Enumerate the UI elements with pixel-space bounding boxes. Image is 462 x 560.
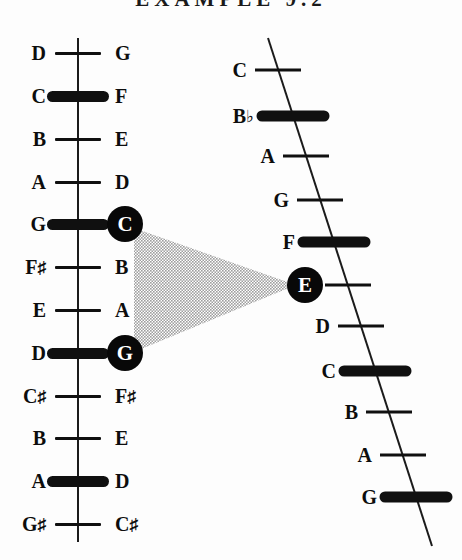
left-fret-tick	[55, 437, 101, 440]
right-string-note-label: D	[284, 316, 330, 336]
circled-note-c[interactable]: C	[107, 206, 143, 242]
accidental-glyph: ♯	[127, 387, 136, 406]
left-string-note-label: G	[6, 214, 46, 234]
left-fret-tick	[55, 181, 101, 184]
right-string-note-label: G	[331, 487, 377, 507]
example-figure-page: EXAMPLE 9.2 DGCFBEADGF♯BEADC♯F♯BEADG♯C♯ …	[0, 0, 462, 560]
left-fret-tick	[55, 138, 101, 141]
left-fret-tick-accent	[47, 476, 109, 487]
left-fret-tick-accent	[47, 91, 109, 102]
right-string-note-label: A	[229, 146, 275, 166]
right-fret-ticks	[255, 70, 447, 497]
right-string-note-label: C	[290, 361, 336, 381]
left-string-note-label: E	[6, 300, 46, 320]
left-string-partner-note-label: C♯	[115, 514, 138, 534]
right-string-note-label: G	[243, 190, 289, 210]
accidental-glyph: ♭	[246, 107, 254, 126]
left-string-note-label: D	[6, 343, 46, 363]
left-string-partner-note-label: D	[115, 471, 129, 491]
left-fret-tick	[55, 266, 101, 269]
left-string-note-label: C	[6, 86, 46, 106]
right-string-note-label: A	[326, 445, 372, 465]
left-fret-tick-accent	[47, 219, 109, 230]
left-string-note-label: B	[6, 129, 46, 149]
left-string-note-label: A	[6, 172, 46, 192]
accidental-glyph: ♯	[38, 258, 47, 277]
accidental-glyph: ♯	[38, 515, 47, 534]
figure-title: EXAMPLE 9.2	[0, 0, 462, 11]
circled-note-g[interactable]: G	[107, 335, 143, 371]
left-string-partner-note-label: D	[115, 172, 129, 192]
left-fret-tick	[55, 52, 101, 55]
left-string-partner-note-label: F	[115, 86, 127, 106]
left-string-note-label: C♯	[6, 386, 46, 406]
right-string-note-label: B♭	[208, 106, 254, 126]
left-string-note-label: F♯	[6, 257, 46, 277]
figure-title-band: EXAMPLE 9.2	[0, 0, 462, 11]
left-fret-tick	[55, 395, 101, 398]
left-string-note-label: D	[6, 43, 46, 63]
left-string-partner-note-label: A	[115, 300, 129, 320]
left-fret-tick-accent	[47, 348, 109, 359]
left-string-note-label: G♯	[6, 514, 46, 534]
left-string-line	[77, 38, 79, 542]
left-string-partner-note-label: B	[115, 257, 128, 277]
right-string-note-label: C	[201, 60, 247, 80]
right-string-note-label: F	[249, 232, 295, 252]
accidental-glyph: ♯	[129, 515, 138, 534]
left-string-note-label: A	[6, 471, 46, 491]
left-string-partner-note-label: G	[115, 43, 131, 63]
left-string-partner-note-label: E	[115, 129, 128, 149]
left-fret-tick	[55, 523, 101, 526]
left-fret-tick	[55, 309, 101, 312]
accidental-glyph: ♯	[38, 387, 47, 406]
right-string-note-label: B	[312, 402, 358, 422]
circled-note-e[interactable]: E	[287, 267, 323, 303]
left-string-note-label: B	[6, 428, 46, 448]
left-string-partner-note-label: F♯	[115, 386, 136, 406]
left-string-partner-note-label: E	[115, 428, 128, 448]
